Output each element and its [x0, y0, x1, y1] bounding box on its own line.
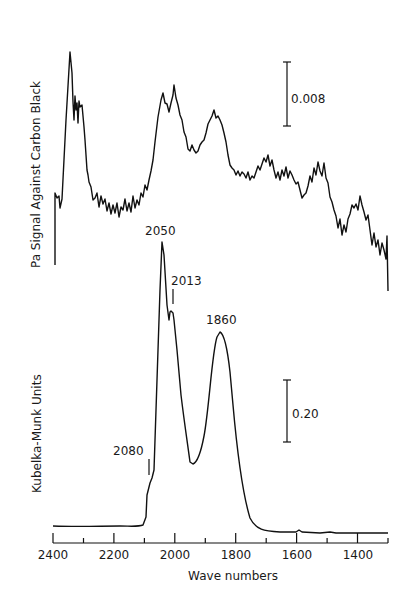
x-tick-1400: 1400 [343, 548, 374, 562]
top-panel: Pa Signal Against Carbon Black 0.008 [29, 52, 388, 291]
top-y-axis-label: Pa Signal Against Carbon Black [29, 81, 43, 268]
peak-label-2080: 2080 [113, 444, 144, 458]
x-tick-1800: 1800 [221, 548, 252, 562]
x-tick-2400: 2400 [38, 548, 69, 562]
bottom-panel: Kubelka-Munk Units 2050 2013 1860 2080 0… [30, 224, 388, 533]
x-tick-2000: 2000 [160, 548, 191, 562]
kubelka-munk-trace [53, 242, 388, 533]
peak-annotations: 2050 2013 1860 2080 [113, 224, 237, 475]
bottom-scale-bar: 0.20 [283, 380, 319, 442]
peak-label-2013: 2013 [171, 274, 202, 288]
pa-signal-trace [55, 52, 388, 291]
peak-label-2050: 2050 [145, 224, 176, 238]
top-scale-bar: 0.008 [283, 62, 325, 126]
spectra-figure: Pa Signal Against Carbon Black 0.008 Kub… [0, 0, 409, 603]
x-tick-2200: 2200 [99, 548, 130, 562]
x-axis: 2400 2200 2000 1800 1600 1400 Wave numbe… [38, 533, 388, 583]
bottom-y-axis-label: Kubelka-Munk Units [30, 374, 44, 493]
x-axis-label: Wave numbers [188, 569, 278, 583]
top-scale-label: 0.008 [291, 92, 325, 106]
x-tick-1600: 1600 [282, 548, 313, 562]
bottom-scale-label: 0.20 [292, 407, 319, 421]
peak-label-1860: 1860 [206, 313, 237, 327]
